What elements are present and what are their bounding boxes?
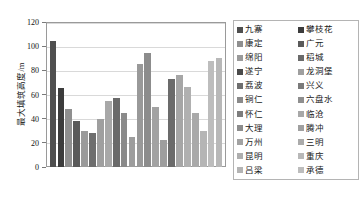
bar[interactable]	[89, 133, 96, 167]
y-tick-label: 40	[31, 114, 39, 123]
y-tick-label: 20	[31, 138, 39, 147]
legend-swatch-icon	[298, 55, 304, 61]
legend-item-label: 怀仁	[245, 108, 263, 121]
legend-item[interactable]: 吕梁	[237, 164, 296, 177]
legend-swatch-icon	[298, 41, 304, 47]
legend-item[interactable]: 大理	[237, 122, 296, 135]
legend-item[interactable]: 承德	[298, 164, 357, 177]
legend-item[interactable]: 怀仁	[237, 108, 296, 121]
y-tick-label: 0	[35, 163, 39, 172]
bar-slot	[96, 22, 104, 167]
legend-swatch-icon	[237, 153, 243, 159]
legend-item-label: 大理	[245, 122, 263, 135]
bar[interactable]	[50, 41, 57, 167]
legend-swatch-icon	[237, 125, 243, 131]
legend-item[interactable]: 重庆	[298, 150, 357, 163]
legend-swatch-icon	[298, 125, 304, 131]
bar-slot	[128, 22, 136, 167]
bar-slot	[199, 22, 207, 167]
legend-swatch-icon	[298, 83, 304, 89]
y-axis-ticks: 020406080100120	[0, 22, 46, 167]
bar-slot	[168, 22, 176, 167]
legend-item-label: 遂宁	[245, 65, 263, 78]
legend-item[interactable]: 遂宁	[237, 65, 296, 78]
bar[interactable]	[137, 64, 144, 167]
bar[interactable]	[113, 98, 120, 167]
legend-item[interactable]: 铜仁	[237, 93, 296, 106]
legend-item-label: 昆明	[245, 150, 263, 163]
bar[interactable]	[200, 131, 207, 167]
bar-slot	[144, 22, 152, 167]
legend-swatch-icon	[298, 27, 304, 33]
legend-swatch-icon	[237, 111, 243, 117]
bar[interactable]	[97, 119, 104, 167]
legend-item[interactable]: 三明	[298, 136, 357, 149]
bar-slot	[120, 22, 128, 167]
bar-slot	[207, 22, 215, 167]
bar[interactable]	[168, 79, 175, 167]
legend-item[interactable]: 稻城	[298, 51, 357, 64]
legend-item[interactable]: 腾冲	[298, 122, 357, 135]
bar[interactable]	[152, 107, 159, 167]
legend-item[interactable]: 兴义	[298, 79, 357, 92]
legend-item-label: 腾冲	[306, 122, 324, 135]
legend-item-label: 康定	[245, 37, 263, 50]
bar[interactable]	[216, 58, 223, 167]
legend-swatch-icon	[237, 27, 243, 33]
legend-swatch-icon	[237, 69, 243, 75]
legend-swatch-icon	[237, 41, 243, 47]
legend-item-label: 兴义	[306, 79, 324, 92]
bar-slot	[152, 22, 160, 167]
bar[interactable]	[58, 88, 65, 167]
bar[interactable]	[184, 87, 191, 167]
bar[interactable]	[160, 140, 167, 167]
legend-item[interactable]: 龙洞堡	[298, 65, 357, 78]
legend-item[interactable]: 六盘水	[298, 93, 357, 106]
bar-slot	[136, 22, 144, 167]
legend-item-label: 万州	[245, 136, 263, 149]
legend-item[interactable]: 荔波	[237, 79, 296, 92]
legend-item-label: 承德	[306, 164, 324, 177]
y-tick-label: 120	[27, 18, 39, 27]
legend-item[interactable]: 昆明	[237, 150, 296, 163]
legend-column-right: 攀枝花广元稻城龙洞堡兴义六盘水临沧腾冲三明重庆承德	[298, 23, 357, 177]
bar-slot	[160, 22, 168, 167]
legend-item-label: 攀枝花	[306, 23, 333, 36]
bar[interactable]	[105, 101, 112, 167]
bar-slot	[65, 22, 73, 167]
bar-slot	[104, 22, 112, 167]
legend-column-left: 九寨康定绵阳遂宁荔波铜仁怀仁大理万州昆明吕梁	[237, 23, 296, 177]
bar[interactable]	[129, 137, 136, 167]
chart-legend: 九寨康定绵阳遂宁荔波铜仁怀仁大理万州昆明吕梁 攀枝花广元稻城龙洞堡兴义六盘水临沧…	[233, 20, 359, 180]
legend-item-label: 荔波	[245, 79, 263, 92]
legend-item[interactable]: 九寨	[237, 23, 296, 36]
legend-item-label: 龙洞堡	[306, 65, 333, 78]
y-tick-label: 80	[31, 66, 39, 75]
legend-item[interactable]: 临沧	[298, 108, 357, 121]
legend-item-label: 广元	[306, 37, 324, 50]
bar[interactable]	[208, 61, 215, 167]
legend-item-label: 稻城	[306, 51, 324, 64]
bar[interactable]	[144, 53, 151, 167]
bar[interactable]	[176, 75, 183, 167]
legend-item[interactable]: 万州	[237, 136, 296, 149]
bar-slot	[81, 22, 89, 167]
bar[interactable]	[65, 109, 72, 167]
legend-item-label: 吕梁	[245, 164, 263, 177]
legend-swatch-icon	[298, 97, 304, 103]
legend-item-label: 重庆	[306, 150, 324, 163]
legend-item-label: 三明	[306, 136, 324, 149]
bar[interactable]	[192, 113, 199, 167]
legend-item[interactable]: 康定	[237, 37, 296, 50]
bar[interactable]	[81, 131, 88, 167]
legend-item[interactable]: 攀枝花	[298, 23, 357, 36]
legend-item[interactable]: 广元	[298, 37, 357, 50]
bar[interactable]	[121, 113, 128, 167]
legend-item-label: 铜仁	[245, 93, 263, 106]
bar-slot	[215, 22, 223, 167]
legend-swatch-icon	[237, 97, 243, 103]
legend-swatch-icon	[298, 111, 304, 117]
bar[interactable]	[73, 121, 80, 167]
legend-swatch-icon	[298, 167, 304, 173]
legend-item[interactable]: 绵阳	[237, 51, 296, 64]
